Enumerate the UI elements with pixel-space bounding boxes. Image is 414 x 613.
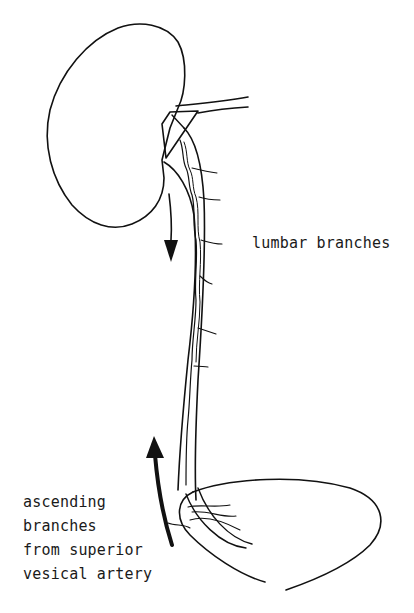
ascending-arrow-shaft — [155, 455, 172, 545]
renal-vessel-upper — [176, 97, 248, 106]
renal-pelvis-inner — [172, 115, 184, 128]
lumbar-branch-2 — [199, 197, 220, 200]
ascending-label-line-3: from superior — [23, 538, 152, 562]
kidney-outline — [47, 24, 185, 227]
ureteric-artery-parallel — [184, 142, 201, 362]
descending-arrow-head — [164, 240, 178, 262]
lumbar-branch-4 — [200, 276, 212, 284]
bladder-outline — [193, 479, 381, 590]
lumbar-branch-1 — [192, 168, 217, 173]
ascending-label-line-4: vesical artery — [23, 562, 152, 586]
ascending-arrow-head — [146, 436, 164, 458]
renal-vessel-lower — [198, 107, 248, 113]
renal-pelvis — [162, 111, 198, 158]
vesical-branch-3 — [168, 523, 190, 528]
vesical-branch-1 — [188, 505, 230, 507]
diagram-canvas: lumbar branches ascending branches from … — [0, 0, 414, 613]
vesical-branch-4 — [192, 512, 236, 517]
vesical-branch-2 — [190, 518, 240, 530]
descending-arrow-shaft — [169, 194, 171, 240]
ascending-branches-label: ascending branches from superior vesical… — [23, 490, 152, 586]
lumbar-branch-6 — [194, 366, 208, 367]
lumbar-branches-label: lumbar branches — [252, 231, 390, 255]
ascending-label-line-2: branches — [23, 514, 152, 538]
ascending-label-line-1: ascending — [23, 490, 152, 514]
ureter-left-wall — [164, 162, 196, 490]
